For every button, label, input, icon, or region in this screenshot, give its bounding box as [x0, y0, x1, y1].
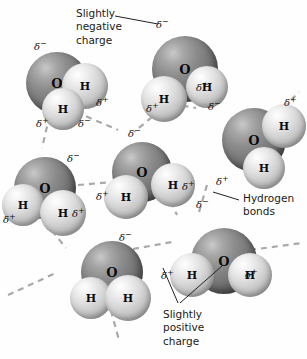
leader-positive-right — [180, 266, 222, 303]
label-hydrogen-bonds: Hydrogen bonds — [243, 192, 294, 219]
leader-positive-left — [163, 268, 178, 303]
callout-leader-layer — [0, 0, 307, 359]
label-slightly-positive-charge: Slightly positive charge — [163, 308, 204, 348]
label-slightly-negative-charge: Slightly negative charge — [76, 7, 122, 47]
water-hydrogen-bonding-diagram: OHHOHHOHHOHHOHHOHHOHH δ−δ−δ+δ+δ+δ+δ−δ+δ−… — [0, 0, 307, 359]
leader-hydrogen-bonds — [213, 192, 239, 200]
